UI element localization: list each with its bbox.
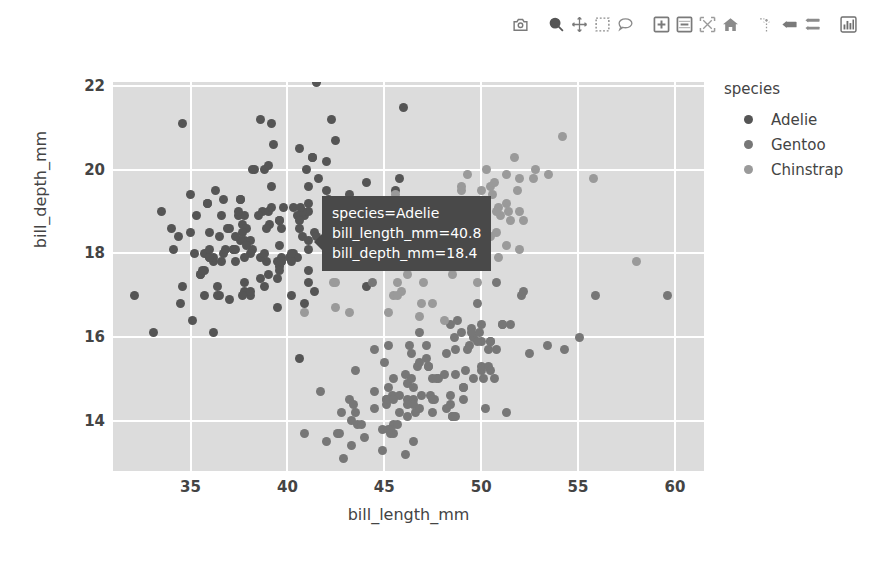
- data-point[interactable]: [395, 174, 404, 183]
- data-point[interactable]: [347, 441, 356, 450]
- data-point[interactable]: [543, 341, 552, 350]
- data-point[interactable]: [417, 391, 426, 400]
- data-point[interactable]: [205, 228, 214, 237]
- data-point[interactable]: [409, 383, 418, 392]
- data-point[interactable]: [269, 140, 278, 149]
- data-point[interactable]: [351, 366, 360, 375]
- data-point[interactable]: [186, 228, 195, 237]
- data-point[interactable]: [378, 425, 387, 434]
- data-point[interactable]: [260, 282, 269, 291]
- data-point[interactable]: [417, 299, 426, 308]
- data-point[interactable]: [380, 358, 389, 367]
- data-point[interactable]: [401, 450, 410, 459]
- data-point[interactable]: [295, 216, 304, 225]
- data-point[interactable]: [428, 299, 437, 308]
- legend-item[interactable]: Chinstrap: [722, 157, 872, 182]
- data-point[interactable]: [157, 207, 166, 216]
- data-point[interactable]: [273, 274, 282, 283]
- data-point[interactable]: [287, 257, 296, 266]
- data-point[interactable]: [217, 257, 226, 266]
- data-point[interactable]: [275, 266, 284, 275]
- data-point[interactable]: [203, 199, 212, 208]
- data-point[interactable]: [560, 345, 569, 354]
- data-point[interactable]: [393, 278, 402, 287]
- data-point[interactable]: [302, 165, 311, 174]
- data-point[interactable]: [531, 165, 540, 174]
- data-point[interactable]: [502, 408, 511, 417]
- data-point[interactable]: [273, 303, 282, 312]
- data-point[interactable]: [335, 429, 344, 438]
- data-point[interactable]: [440, 316, 449, 325]
- data-point[interactable]: [231, 245, 240, 254]
- data-point[interactable]: [663, 291, 672, 300]
- data-point[interactable]: [322, 437, 331, 446]
- data-point[interactable]: [384, 383, 393, 392]
- data-point[interactable]: [277, 257, 286, 266]
- data-point[interactable]: [558, 132, 567, 141]
- data-point[interactable]: [481, 404, 490, 413]
- data-point[interactable]: [544, 170, 553, 179]
- data-point[interactable]: [506, 216, 515, 225]
- data-point[interactable]: [368, 278, 377, 287]
- data-point[interactable]: [275, 241, 284, 250]
- data-point[interactable]: [424, 362, 433, 371]
- data-point[interactable]: [409, 437, 418, 446]
- plot-area[interactable]: [113, 82, 704, 471]
- data-point[interactable]: [407, 374, 416, 383]
- data-point[interactable]: [267, 119, 276, 128]
- data-point[interactable]: [451, 345, 460, 354]
- data-point[interactable]: [190, 249, 199, 258]
- data-point[interactable]: [415, 404, 424, 413]
- data-point[interactable]: [502, 241, 511, 250]
- data-point[interactable]: [494, 253, 503, 262]
- data-point[interactable]: [295, 354, 304, 363]
- data-point[interactable]: [262, 224, 271, 233]
- data-point[interactable]: [304, 245, 313, 254]
- data-point[interactable]: [591, 291, 600, 300]
- data-point[interactable]: [378, 446, 387, 455]
- data-point[interactable]: [407, 349, 416, 358]
- data-point[interactable]: [260, 249, 269, 258]
- data-point[interactable]: [384, 341, 393, 350]
- data-point[interactable]: [217, 211, 226, 220]
- data-point[interactable]: [327, 115, 336, 124]
- data-point[interactable]: [477, 186, 486, 195]
- data-point[interactable]: [349, 400, 358, 409]
- data-point[interactable]: [167, 224, 176, 233]
- data-point[interactable]: [192, 211, 201, 220]
- data-point[interactable]: [322, 186, 331, 195]
- data-point[interactable]: [267, 203, 276, 212]
- data-point[interactable]: [473, 337, 482, 346]
- data-point[interactable]: [519, 287, 528, 296]
- data-point[interactable]: [515, 174, 524, 183]
- data-point[interactable]: [575, 333, 584, 342]
- data-point[interactable]: [490, 374, 499, 383]
- data-point[interactable]: [169, 245, 178, 254]
- data-point[interactable]: [267, 182, 276, 191]
- data-point[interactable]: [370, 404, 379, 413]
- data-point[interactable]: [277, 224, 286, 233]
- data-point[interactable]: [513, 186, 522, 195]
- data-point[interactable]: [451, 370, 460, 379]
- data-point[interactable]: [300, 308, 309, 317]
- data-point[interactable]: [360, 433, 369, 442]
- data-point[interactable]: [589, 174, 598, 183]
- data-point[interactable]: [316, 387, 325, 396]
- data-point[interactable]: [130, 291, 139, 300]
- data-point[interactable]: [331, 303, 340, 312]
- data-point[interactable]: [300, 299, 309, 308]
- data-point[interactable]: [174, 232, 183, 241]
- data-point[interactable]: [295, 144, 304, 153]
- data-point[interactable]: [246, 287, 255, 296]
- data-point[interactable]: [186, 190, 195, 199]
- data-point[interactable]: [428, 408, 437, 417]
- data-point[interactable]: [459, 383, 468, 392]
- data-point[interactable]: [178, 119, 187, 128]
- data-point[interactable]: [264, 270, 273, 279]
- data-point[interactable]: [446, 400, 455, 409]
- data-point[interactable]: [362, 178, 371, 187]
- data-point[interactable]: [473, 278, 482, 287]
- data-point[interactable]: [525, 349, 534, 358]
- data-point[interactable]: [287, 291, 296, 300]
- data-point[interactable]: [304, 182, 313, 191]
